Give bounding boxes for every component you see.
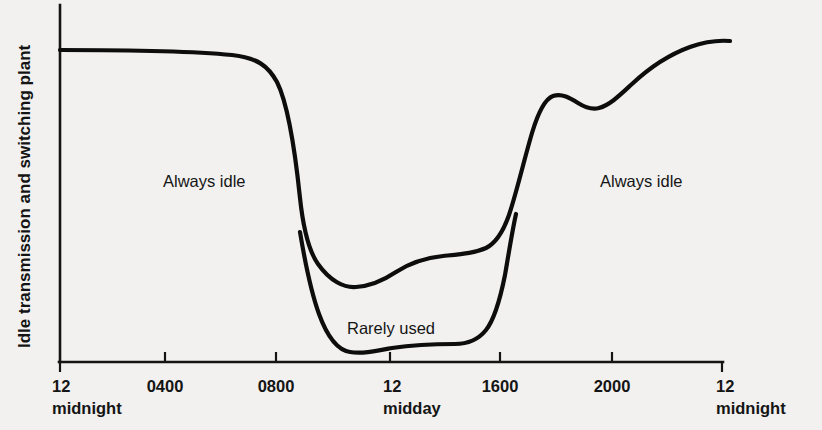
x-tick-label-1: 0400	[147, 377, 184, 395]
x-tick-sublabel-3: midday	[383, 399, 442, 417]
x-tick-labels: 12 midnight 0400 0800 12 midday 1600 200…	[52, 377, 786, 417]
curve-always-idle	[60, 41, 730, 287]
x-tick-label-6: 12	[716, 377, 734, 395]
chart-figure: Idle transmission and switching plant Al…	[0, 0, 822, 430]
x-tick-label-3: 12	[383, 377, 401, 395]
y-axis-title: Idle transmission and switching plant	[15, 44, 34, 348]
x-tick-label-0: 12	[52, 377, 70, 395]
x-tick-sublabel-0: midnight	[52, 399, 122, 417]
annotation-always-idle-left: Always idle	[163, 172, 246, 190]
x-tick-label-2: 0800	[258, 377, 295, 395]
annotation-rarely-used: Rarely used	[347, 319, 435, 337]
x-tick-sublabel-6: midnight	[716, 399, 786, 417]
annotation-always-idle-right: Always idle	[600, 172, 683, 190]
x-tick-label-5: 2000	[594, 377, 631, 395]
chart-svg: Idle transmission and switching plant Al…	[0, 0, 822, 430]
x-tick-label-4: 1600	[482, 377, 519, 395]
